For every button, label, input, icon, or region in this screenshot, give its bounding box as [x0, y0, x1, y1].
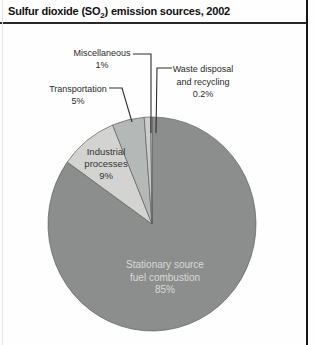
slice-label-line: processes — [84, 158, 127, 170]
slice-label-line: 85% — [126, 284, 204, 297]
callout-miscellaneous: Miscellaneous 1% — [73, 47, 130, 71]
callout-line: 1% — [73, 59, 130, 71]
callout-line: Miscellaneous — [73, 47, 130, 59]
pie-chart-figure: Sulfur dioxide (SO2) emission sources, 2… — [0, 0, 315, 345]
slice-label-line: 9% — [84, 170, 127, 182]
callout-line: 0.2% — [173, 88, 234, 101]
callout-waste-disposal: Waste disposal and recycling 0.2% — [173, 63, 234, 101]
slice-label-line: Stationary source — [126, 259, 204, 272]
leader-line-transportation — [109, 88, 132, 122]
callout-line: and recycling — [173, 76, 234, 89]
callout-line: Transportation — [49, 83, 107, 95]
slice-label-line: Industrial — [84, 146, 127, 158]
callout-line: Waste disposal — [173, 63, 234, 76]
callout-line: 5% — [49, 95, 107, 107]
slice-label-line: fuel combustion — [126, 272, 204, 285]
slice-label-industrial: Industrial processes 9% — [84, 146, 127, 182]
callout-transportation: Transportation 5% — [49, 83, 107, 107]
slice-label-stationary: Stationary source fuel combustion 85% — [126, 259, 204, 297]
